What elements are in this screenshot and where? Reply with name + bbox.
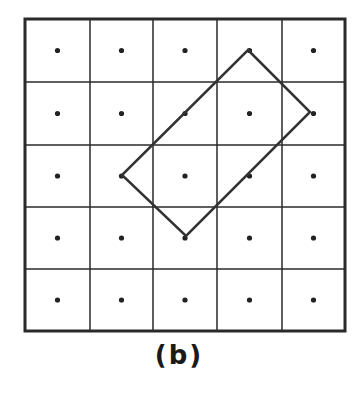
grid-dot: [119, 111, 124, 116]
figure-caption: (b): [0, 340, 358, 370]
grid-dot: [119, 48, 124, 53]
grid-dot: [119, 297, 124, 302]
grid-dot: [55, 173, 60, 178]
grid-dot: [55, 111, 60, 116]
grid-dot: [55, 235, 60, 240]
grid-dot: [311, 48, 316, 53]
grid-dot: [311, 173, 316, 178]
grid-dot: [247, 297, 252, 302]
grid-dot: [182, 297, 187, 302]
grid-dot: [182, 48, 187, 53]
grid-dot: [247, 235, 252, 240]
grid-dots: [55, 48, 316, 303]
grid-dot: [311, 111, 316, 116]
grid-dot: [119, 235, 124, 240]
grid-dot: [311, 297, 316, 302]
grid-dot: [311, 235, 316, 240]
grid-dot: [247, 111, 252, 116]
grid-dot: [55, 297, 60, 302]
grid-dot: [55, 48, 60, 53]
grid-dot: [182, 173, 187, 178]
